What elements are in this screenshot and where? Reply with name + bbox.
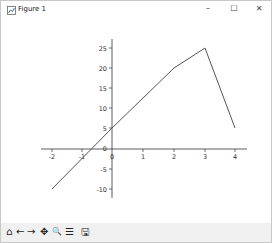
svg-text:-10: -10 bbox=[96, 186, 107, 194]
svg-text:15: 15 bbox=[99, 85, 107, 93]
figure-window: Figure 1 – ☐ ✕ -2 -1 0 1 2 3 4 bbox=[0, 0, 272, 243]
back-arrow-icon[interactable]: ← bbox=[16, 226, 24, 238]
svg-text:5: 5 bbox=[103, 125, 107, 133]
svg-text:0: 0 bbox=[103, 145, 107, 153]
svg-text:0: 0 bbox=[110, 153, 114, 161]
svg-text:25: 25 bbox=[99, 45, 107, 53]
save-icon[interactable]: 🖫 bbox=[81, 226, 90, 238]
configure-subplots-icon[interactable]: ☰ bbox=[65, 226, 74, 238]
svg-text:3: 3 bbox=[203, 153, 207, 161]
svg-text:-1: -1 bbox=[79, 153, 85, 161]
svg-text:2: 2 bbox=[172, 153, 176, 161]
figure-app-icon bbox=[7, 6, 16, 15]
home-icon[interactable]: ⌂ bbox=[6, 226, 12, 238]
minimize-button[interactable]: – bbox=[201, 4, 215, 13]
svg-text:1: 1 bbox=[141, 153, 145, 161]
svg-text:-2: -2 bbox=[49, 153, 55, 161]
navigation-toolbar: ⌂ ← → ✥ 🔍 ☰ 🖫 bbox=[1, 223, 271, 242]
svg-text:-5: -5 bbox=[101, 166, 107, 174]
title-bar: Figure 1 – ☐ ✕ bbox=[1, 1, 271, 23]
pan-icon[interactable]: ✥ bbox=[40, 226, 48, 238]
plot-canvas[interactable]: -2 -1 0 1 2 3 4 25 20 15 10 5 0 -5 -10 bbox=[1, 23, 271, 223]
data-line bbox=[52, 48, 235, 189]
maximize-button[interactable]: ☐ bbox=[227, 4, 241, 13]
svg-text:20: 20 bbox=[99, 65, 107, 73]
close-button[interactable]: ✕ bbox=[252, 4, 266, 13]
zoom-icon[interactable]: 🔍 bbox=[52, 226, 62, 238]
y-ticks: 25 20 15 10 5 0 -5 -10 bbox=[96, 45, 112, 194]
forward-arrow-icon[interactable]: → bbox=[27, 226, 35, 238]
x-ticks: -2 -1 0 1 2 3 4 bbox=[49, 149, 237, 161]
window-title: Figure 1 bbox=[18, 5, 46, 13]
svg-text:10: 10 bbox=[99, 105, 107, 113]
svg-text:4: 4 bbox=[233, 153, 237, 161]
